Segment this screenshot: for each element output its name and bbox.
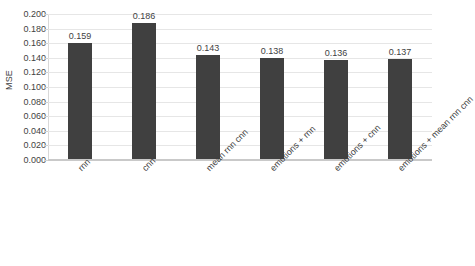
gridline <box>48 87 432 88</box>
bar-value-label: 0.137 <box>389 47 412 57</box>
y-axis-tick-label: 0.080 <box>23 97 46 106</box>
bar-group[interactable]: 0.143 <box>196 55 220 159</box>
x-axis-category-labels: rnncnnmean rnn cnnemotions + rnnemotions… <box>48 162 432 266</box>
bar-group[interactable]: 0.186 <box>132 23 156 159</box>
gridline <box>48 43 432 44</box>
bar[interactable] <box>324 60 348 159</box>
y-axis-tick-mark <box>44 29 48 30</box>
bar[interactable] <box>132 23 156 159</box>
y-axis-tick-label: 0.040 <box>23 126 46 135</box>
bar[interactable] <box>260 58 284 159</box>
y-axis-tick-label: 0.180 <box>23 24 46 33</box>
y-axis-tick-label: 0.140 <box>23 53 46 62</box>
bar-value-label: 0.143 <box>197 43 220 53</box>
y-axis-tick-mark <box>44 43 48 44</box>
bar-value-label: 0.159 <box>69 31 92 41</box>
gridline <box>48 58 432 59</box>
y-axis-tick-mark <box>44 14 48 15</box>
y-axis-tick-label: 0.060 <box>23 112 46 121</box>
bar-group[interactable]: 0.159 <box>68 43 92 159</box>
y-axis-tick-mark <box>44 58 48 59</box>
y-axis-tick-mark <box>44 116 48 117</box>
bar-value-label: 0.186 <box>133 11 156 21</box>
y-axis-tick-label: 0.020 <box>23 141 46 150</box>
y-axis-tick-label: 0.160 <box>23 39 46 48</box>
bar-value-label: 0.138 <box>261 46 284 56</box>
y-axis-tick-mark <box>44 131 48 132</box>
y-axis-tick-mark <box>44 87 48 88</box>
y-axis-tick-label: 0.200 <box>23 10 46 19</box>
bar[interactable] <box>196 55 220 159</box>
gridline <box>48 72 432 73</box>
gridline <box>48 145 432 146</box>
y-axis-tick-label: 0.120 <box>23 68 46 77</box>
y-axis-tick-mark <box>44 145 48 146</box>
bar-group[interactable]: 0.137 <box>388 59 412 159</box>
y-axis-tick-mark <box>44 72 48 73</box>
bar[interactable] <box>388 59 412 159</box>
y-axis-tick-label: 0.000 <box>23 156 46 165</box>
gridline <box>48 14 432 15</box>
gridline <box>48 29 432 30</box>
bar-value-label: 0.136 <box>325 48 348 58</box>
y-axis-title-label: MSE <box>4 70 14 90</box>
gridline <box>48 116 432 117</box>
y-axis-tick-mark <box>44 160 48 161</box>
gridline <box>48 102 432 103</box>
gridline <box>48 160 432 161</box>
y-axis-tick-label: 0.100 <box>23 83 46 92</box>
y-axis-tick-labels: 0.2000.1800.1600.1400.1200.1000.0800.060… <box>14 0 48 160</box>
y-axis-tick-mark <box>44 102 48 103</box>
bar-group[interactable]: 0.136 <box>324 60 348 159</box>
bar-group[interactable]: 0.138 <box>260 58 284 159</box>
bar[interactable] <box>68 43 92 159</box>
